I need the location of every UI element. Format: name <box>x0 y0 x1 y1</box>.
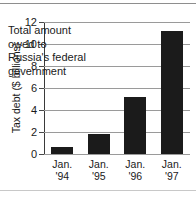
x-axis-tick-label-line: '97 <box>150 170 194 182</box>
y-axis-tick-label: 0 <box>31 149 37 160</box>
y-axis-tick <box>39 132 44 133</box>
y-axis-tick-label: 4 <box>31 105 37 116</box>
chart-figure: 024681012 Tax debt ($ billions) Jan.'94J… <box>0 0 196 199</box>
annotation-line: government <box>8 65 100 79</box>
annotation-line: Russia's federal <box>8 51 100 65</box>
x-axis-tick-label: Jan.'97 <box>150 158 194 182</box>
x-axis-tick-label-line: Jan. <box>150 158 194 170</box>
y-axis-tick <box>39 154 44 155</box>
bottom-rule <box>0 190 196 191</box>
y-axis-tick-label: 2 <box>31 127 37 138</box>
y-axis-tick <box>39 110 44 111</box>
bar <box>124 97 146 154</box>
y-axis-tick <box>39 88 44 89</box>
y-axis-tick <box>39 22 44 23</box>
annotation-line: owed to <box>8 38 100 52</box>
bar <box>51 147 73 154</box>
gridline <box>44 154 190 155</box>
y-axis-tick-label: 6 <box>31 83 37 94</box>
gridline <box>44 22 190 23</box>
bar <box>88 134 110 154</box>
series-annotation: Total amountowed toRussia's federalgover… <box>8 24 100 78</box>
top-rule <box>0 3 196 4</box>
bar <box>161 31 183 154</box>
annotation-line: Total amount <box>8 24 100 38</box>
